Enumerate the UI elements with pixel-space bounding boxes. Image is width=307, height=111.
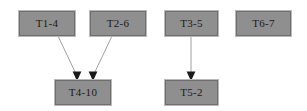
edge-t1-4-to-t4-10 xyxy=(58,36,81,81)
node-label: T6-7 xyxy=(252,18,275,29)
node-t4-10[interactable]: T4-10 xyxy=(55,80,111,105)
node-label: T1-4 xyxy=(36,18,59,29)
task-dependency-diagram: T1-4 T2-6 T3-5 T6-7 T4-10 T5-2 xyxy=(0,0,307,111)
edge-line xyxy=(58,36,77,76)
edge-t3-5-to-t5-2 xyxy=(187,36,196,81)
node-t1-4[interactable]: T1-4 xyxy=(19,11,75,36)
node-t5-2[interactable]: T5-2 xyxy=(165,80,218,105)
node-t2-6[interactable]: T2-6 xyxy=(90,11,146,36)
edge-line xyxy=(93,36,112,76)
node-label: T5-2 xyxy=(180,87,203,98)
node-label: T4-10 xyxy=(69,87,97,98)
node-label: T3-5 xyxy=(180,18,203,29)
edge-t2-6-to-t4-10 xyxy=(89,36,112,81)
node-label: T2-6 xyxy=(107,18,130,29)
node-t3-5[interactable]: T3-5 xyxy=(165,11,218,36)
node-t6-7[interactable]: T6-7 xyxy=(236,11,291,36)
